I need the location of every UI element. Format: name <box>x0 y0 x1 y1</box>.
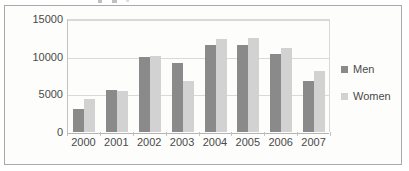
legend-item-women[interactable]: Women <box>341 91 401 102</box>
bar-group-2003 <box>169 19 202 132</box>
bar-men-2001 <box>106 90 117 132</box>
legend-label: Men <box>353 64 374 75</box>
legend-item-men[interactable]: Men <box>341 64 401 75</box>
x-axis-tick-label: 2005 <box>231 136 264 149</box>
x-axis-tick-label: 2000 <box>67 136 100 149</box>
bar-men-2007 <box>303 81 314 132</box>
bar-women-2001 <box>117 91 128 132</box>
legend-label: Women <box>353 91 391 102</box>
bar-men-2006 <box>270 54 281 132</box>
bar-women-2005 <box>248 38 259 132</box>
y-axis-tick-label: 15000 <box>5 14 63 25</box>
legend-swatch-icon <box>341 93 348 100</box>
bar-men-2003 <box>172 63 183 132</box>
x-axis-tick-mark <box>100 132 101 136</box>
x-axis-labels: 20002001200220032004200520062007 <box>67 136 330 152</box>
bar-group-2002 <box>136 19 169 132</box>
chart-frame: 050001000015000 200020012002200320042005… <box>4 5 402 165</box>
bar-women-2004 <box>216 39 227 132</box>
x-axis-tick-mark <box>166 132 167 136</box>
bar-women-2002 <box>150 56 161 132</box>
bars-layer <box>67 19 330 132</box>
bar-women-2007 <box>314 71 325 132</box>
bar-men-2004 <box>205 45 216 132</box>
x-axis-tick-mark <box>330 132 331 136</box>
y-axis-tick-label: 5000 <box>5 89 63 100</box>
bar-group-2004 <box>202 19 235 132</box>
chart-legend: MenWomen <box>341 64 401 118</box>
y-axis-tick-label: 10000 <box>5 52 63 63</box>
bar-group-2000 <box>70 19 103 132</box>
x-axis-tick-label: 2004 <box>199 136 232 149</box>
x-axis-tick-label: 2006 <box>264 136 297 149</box>
x-axis-tick-mark <box>264 132 265 136</box>
x-axis-tick-mark <box>297 132 298 136</box>
x-axis-tick-mark <box>67 132 68 136</box>
bar-group-2007 <box>300 19 333 132</box>
bar-women-2006 <box>281 48 292 132</box>
bar-women-2003 <box>183 81 194 132</box>
bar-group-2001 <box>103 19 136 132</box>
bar-men-2005 <box>237 45 248 132</box>
bar-men-2002 <box>139 57 150 132</box>
x-axis-tick-label: 2003 <box>166 136 199 149</box>
bar-group-2006 <box>267 19 300 132</box>
bar-group-2005 <box>234 19 267 132</box>
bar-men-2000 <box>73 109 84 132</box>
y-axis-tick-label: 0 <box>5 127 63 138</box>
x-axis-tick-mark <box>231 132 232 136</box>
x-axis-tick-label: 2001 <box>100 136 133 149</box>
legend-swatch-icon <box>341 66 348 73</box>
y-axis-labels: 050001000015000 <box>5 19 63 132</box>
bar-women-2000 <box>84 99 95 132</box>
x-axis-tick-label: 2002 <box>133 136 166 149</box>
x-axis-tick-mark <box>199 132 200 136</box>
x-axis-tick-mark <box>133 132 134 136</box>
scan-artifact <box>96 0 136 4</box>
chart-screenshot: 050001000015000 200020012002200320042005… <box>0 0 409 171</box>
x-axis-tick-label: 2007 <box>297 136 330 149</box>
